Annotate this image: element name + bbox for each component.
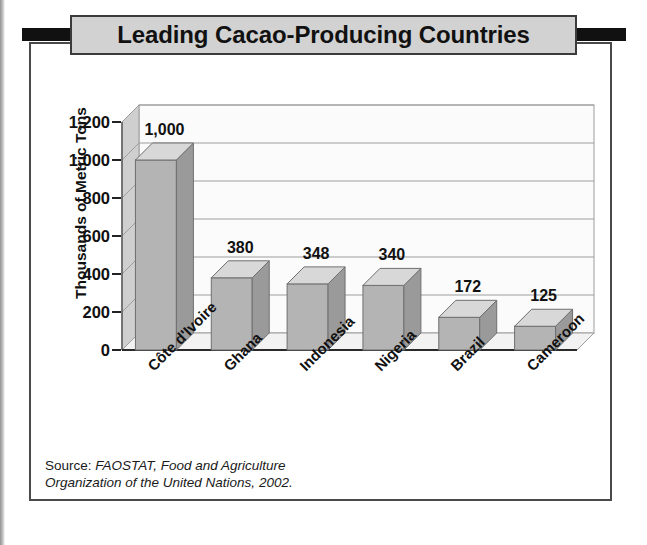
bar-value-label: 380 (227, 239, 254, 257)
source-label: Source: (45, 458, 92, 473)
source-org-line1: FAOSTAT, Food and Agriculture (95, 458, 285, 473)
chart-title-box: Leading Cacao-Producing Countries (70, 15, 577, 55)
page-edge-artifact (0, 0, 5, 545)
bar-value-label: 348 (303, 245, 330, 263)
source-year: 2002. (259, 475, 293, 490)
figure-frame: Thousands of Metric Tons 02004006008001,… (29, 42, 612, 501)
chart-plot-area: Thousands of Metric Tons 02004006008001,… (31, 44, 614, 503)
bar-value-label: 125 (530, 287, 557, 305)
bar-value-label: 172 (454, 278, 481, 296)
bar-front-0 (135, 160, 176, 350)
chart-title: Leading Cacao-Producing Countries (117, 21, 530, 49)
chart-canvas (31, 44, 614, 503)
source-note: Source: FAOSTAT, Food and Agriculture Or… (45, 458, 293, 491)
source-org-line2: Organization of the United Nations, (45, 475, 255, 490)
bar-value-label: 1,000 (144, 121, 184, 139)
bar-value-label: 340 (379, 246, 406, 264)
